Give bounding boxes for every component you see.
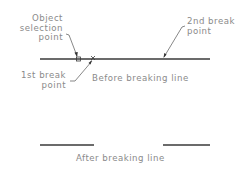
break-line-diagram: Object selection point 1st break point 2… [0, 0, 247, 170]
before-caption: Before breaking line [92, 74, 189, 84]
arrowhead-icon [75, 52, 78, 57]
arrowhead-icon [89, 60, 93, 65]
after-caption: After breaking line [76, 154, 165, 164]
first-break-point-label: 1st break point [10, 71, 66, 90]
object-selection-point-label: Object selection point [14, 14, 63, 43]
first-break-leader [70, 61, 92, 81]
second-break-leader [164, 26, 185, 57]
second-break-point-label: 2nd break point [187, 17, 235, 36]
